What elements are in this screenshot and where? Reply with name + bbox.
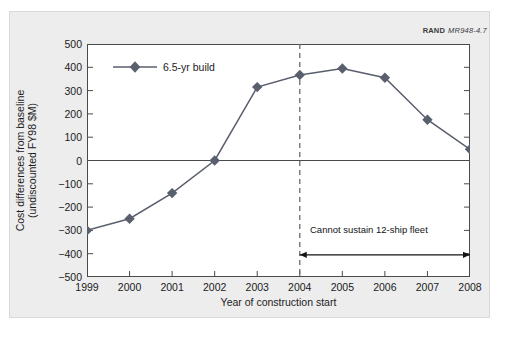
credit-number: MR948-4.7: [448, 26, 487, 35]
y-tick-label: −300: [58, 224, 82, 236]
plot-canvas: [87, 44, 470, 277]
x-tick-label: 2005: [331, 281, 354, 293]
figure-container: RANDMR948-4.7 Cost differences from base…: [0, 0, 507, 339]
series-line-6-5-yr-build: [87, 68, 470, 230]
data-point-marker: [252, 82, 262, 92]
x-tick-label: 2003: [246, 281, 269, 293]
x-tick-label: 2002: [203, 281, 226, 293]
credit-org: RAND: [423, 26, 445, 35]
annotation-cannot-sustain-label: Cannot sustain 12-ship fleet: [310, 224, 428, 235]
x-axis-tick-labels: 1999200020012002200320042005200620072008: [87, 281, 470, 297]
rand-credit: RANDMR948-4.7: [423, 26, 487, 35]
y-axis-tick-labels: 5004003002001000−100−200−300−400−500: [45, 44, 82, 277]
data-point-marker: [124, 214, 134, 224]
legend-marker-icon: [113, 60, 157, 74]
x-tick-label: 2006: [373, 281, 396, 293]
chart-legend: 6.5-yr build: [113, 60, 215, 74]
x-tick-label: 2000: [118, 281, 141, 293]
data-point-marker: [337, 63, 347, 73]
x-tick-label: 2004: [288, 281, 311, 293]
x-axis-title: Year of construction start: [87, 296, 470, 308]
y-axis-title-wrap: Cost differences from baseline (undiscou…: [26, 44, 46, 277]
y-tick-label: 300: [64, 85, 82, 97]
y-tick-label: 0: [76, 155, 82, 167]
x-tick-label: 2001: [160, 281, 183, 293]
legend-label-6-5-yr-build: 6.5-yr build: [163, 61, 215, 73]
span-arrow-cannot-sustain: [300, 252, 470, 258]
y-tick-label: −100: [58, 178, 82, 190]
y-tick-label: 400: [64, 61, 82, 73]
y-tick-label: 200: [64, 108, 82, 120]
span-arrow-head: [300, 252, 307, 258]
x-tick-label: 1999: [75, 281, 98, 293]
data-point-marker: [295, 70, 305, 80]
data-point-marker: [87, 225, 92, 235]
y-axis-title: Cost differences from baseline (undiscou…: [9, 44, 43, 277]
y-tick-label: 500: [64, 38, 82, 50]
y-axis-title-line2: (undiscounted FY98 $M): [26, 90, 39, 232]
span-arrow-head: [463, 252, 470, 258]
x-tick-label: 2008: [458, 281, 481, 293]
y-axis-title-line1: Cost differences from baseline: [14, 90, 27, 232]
y-tick-label: −400: [58, 248, 82, 260]
y-tick-label: 100: [64, 131, 82, 143]
y-tick-label: −200: [58, 201, 82, 213]
x-tick-label: 2007: [416, 281, 439, 293]
